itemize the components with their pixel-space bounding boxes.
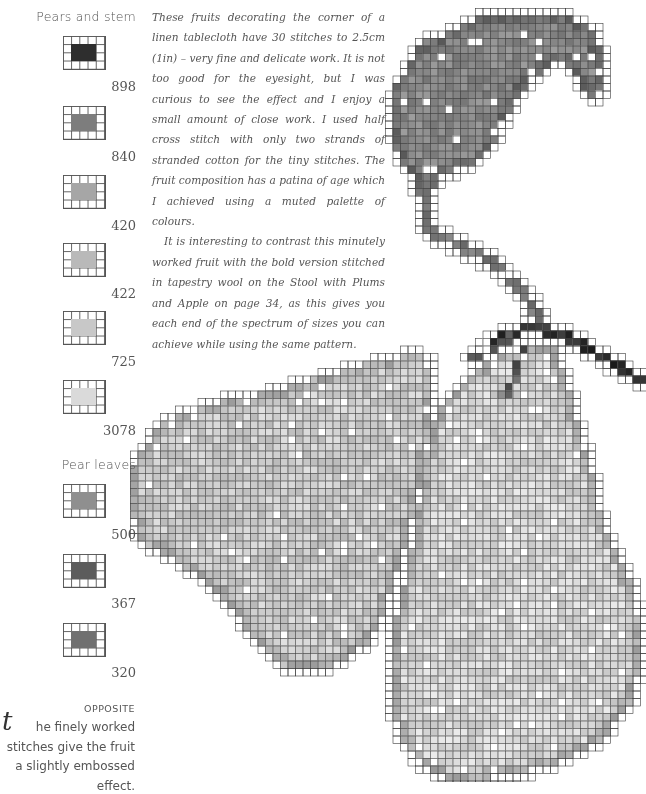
swatch-420 <box>63 175 106 209</box>
swatch-fill <box>71 44 96 61</box>
swatch-367 <box>63 554 106 588</box>
swatch-3078 <box>63 380 106 414</box>
caption-text: he finely worked stitches give the fruit… <box>7 720 135 793</box>
caption-dropcap: t <box>2 711 12 731</box>
swatch-code: 898 <box>76 79 136 94</box>
legend-heading-pears-and-stem: Pears and stem <box>0 9 136 24</box>
swatch-725 <box>63 311 106 345</box>
swatch-fill <box>71 492 96 509</box>
swatch-code: 420 <box>76 218 136 233</box>
swatch-code: 3078 <box>76 423 136 438</box>
swatch-898 <box>63 36 106 70</box>
swatch-fill <box>71 319 96 336</box>
swatch-840 <box>63 106 106 140</box>
legend-heading-pear-leaves: Pear leaves <box>0 457 136 472</box>
caption-label: OPPOSITE <box>0 703 135 714</box>
swatch-code: 840 <box>76 149 136 164</box>
swatch-code: 725 <box>76 354 136 369</box>
swatch-fill <box>71 183 96 200</box>
body-text: These fruits decorating the corner of a … <box>152 7 385 354</box>
paragraph: It is interesting to contrast this minut… <box>152 231 385 353</box>
swatch-code: 422 <box>76 286 136 301</box>
swatch-fill <box>71 562 96 579</box>
swatch-500 <box>63 484 106 518</box>
swatch-320 <box>63 623 106 657</box>
swatch-fill <box>71 251 96 268</box>
paragraph: These fruits decorating the corner of a … <box>152 7 385 231</box>
swatch-code: 500 <box>76 527 136 542</box>
swatch-fill <box>71 114 96 131</box>
swatch-fill <box>71 631 96 648</box>
photo-caption: OPPOSITE t he finely worked stitches giv… <box>0 703 135 794</box>
swatch-code: 367 <box>76 596 136 611</box>
swatch-fill <box>71 388 96 405</box>
swatch-422 <box>63 243 106 277</box>
swatch-code: 320 <box>76 665 136 680</box>
